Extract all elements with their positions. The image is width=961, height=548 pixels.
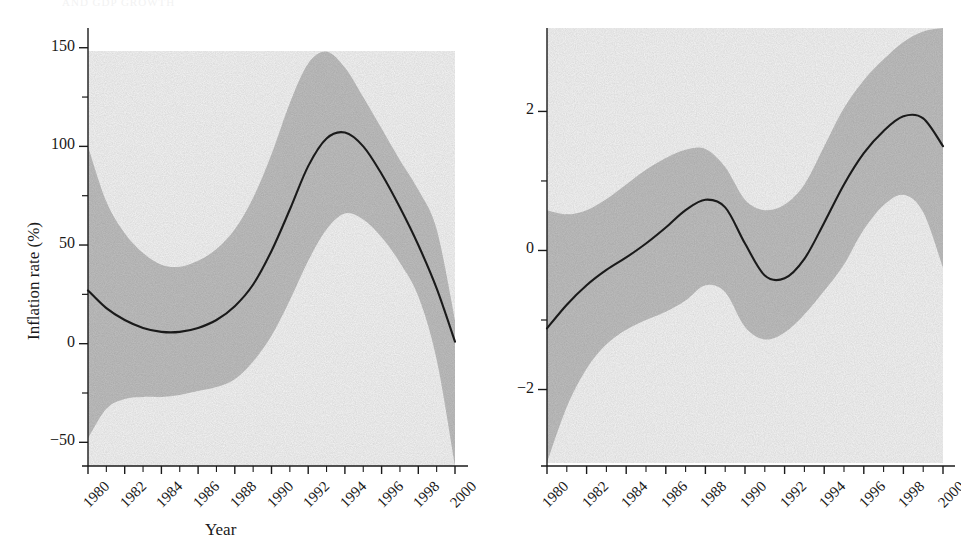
figure-container: AND GDP GROWTH Inflation rate (%) Year −… xyxy=(0,0,961,548)
band-grain-texture xyxy=(88,52,455,466)
y-tick-label: −2 xyxy=(480,379,534,397)
panel-inflation-rate: Inflation rate (%) Year −500501001501980… xyxy=(0,0,480,548)
y-tick-label: 0 xyxy=(480,239,534,257)
inflation-rate-plot xyxy=(0,0,480,548)
y-tick-label: 2 xyxy=(480,100,534,118)
y-tick-label: 100 xyxy=(21,135,75,153)
y-tick-label: 150 xyxy=(21,37,75,55)
panel-gdp-growth: GDP per capita growth (%) Year −20219801… xyxy=(481,0,961,548)
y-tick-label: 0 xyxy=(21,333,75,351)
y-tick-label: 50 xyxy=(21,234,75,252)
y-tick-label: −50 xyxy=(21,431,75,449)
gdp-per-capita-growth-plot xyxy=(481,0,961,548)
x-axis-title-left: Year xyxy=(205,520,236,540)
